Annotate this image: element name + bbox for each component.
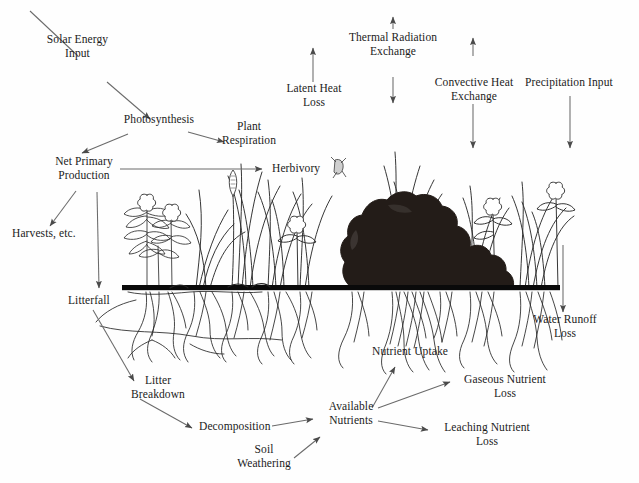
label-latent-heat-loss: Latent Heat Loss: [272, 82, 356, 109]
label-herbivory: Herbivory: [272, 162, 338, 176]
label-convective-heat-exchange: Convective Heat Exchange: [426, 76, 522, 103]
vegetation-left-herbs: [124, 194, 191, 288]
label-precipitation-input: Precipitation Input: [525, 76, 637, 90]
label-harvests: Harvests, etc.: [12, 227, 98, 241]
arrow-litter-breakdown-to-decomposition: [140, 399, 192, 428]
label-available-nutrients: Available Nutrients: [316, 400, 386, 427]
arrow-litterfall-to-litter-breakdown: [93, 310, 134, 381]
label-decomposition: Decomposition: [199, 420, 289, 434]
root-zone: [96, 284, 562, 374]
arrow-available-nutrients-to-gaseous-loss: [378, 382, 450, 408]
label-soil-weathering: Soil Weathering: [229, 443, 299, 470]
label-litterfall: Litterfall: [68, 294, 130, 308]
arrow-solar-energy-input: [30, 11, 150, 119]
label-solar-energy-input: Solar Energy Input: [30, 33, 125, 60]
label-water-runoff-loss: Water Runoff Loss: [523, 313, 607, 340]
label-gaseous-nutrient-loss: Gaseous Nutrient Loss: [453, 373, 557, 400]
label-nutrient-uptake: Nutrient Uptake: [361, 345, 459, 359]
ecosystem-diagram: Solar Energy Input Photosynthesis Plant …: [0, 0, 639, 483]
label-net-primary-production: Net Primary Production: [42, 155, 126, 182]
label-leaching-nutrient-loss: Leaching Nutrient Loss: [432, 421, 542, 448]
label-thermal-radiation-exchange: Thermal Radiation Exchange: [339, 31, 447, 58]
label-photosynthesis: Photosynthesis: [114, 113, 204, 127]
label-litter-breakdown: Litter Breakdown: [120, 374, 196, 401]
arrow-photosynthesis-to-npp: [82, 134, 128, 153]
label-plant-respiration: Plant Respiration: [216, 120, 282, 147]
arrow-npp-to-harvests: [50, 191, 76, 226]
